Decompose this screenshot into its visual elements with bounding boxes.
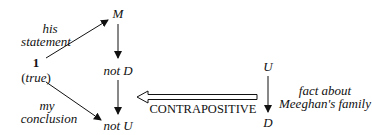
node-one: 1 [29, 56, 43, 70]
conclusion-label: conclusion [20, 112, 78, 126]
node-not-u: not U [100, 119, 136, 133]
node-d: D [260, 116, 276, 130]
fact-label-line2: Meeghan's family [276, 97, 372, 111]
contrapositive-label: CONTRAPOSITIVE [148, 102, 258, 116]
node-u: U [260, 60, 276, 74]
true-text: true [26, 70, 47, 85]
node-true-label: (true) [14, 71, 58, 85]
statement-label: statement [20, 35, 72, 49]
node-m: M [108, 7, 128, 21]
node-not-d: not D [100, 64, 136, 78]
